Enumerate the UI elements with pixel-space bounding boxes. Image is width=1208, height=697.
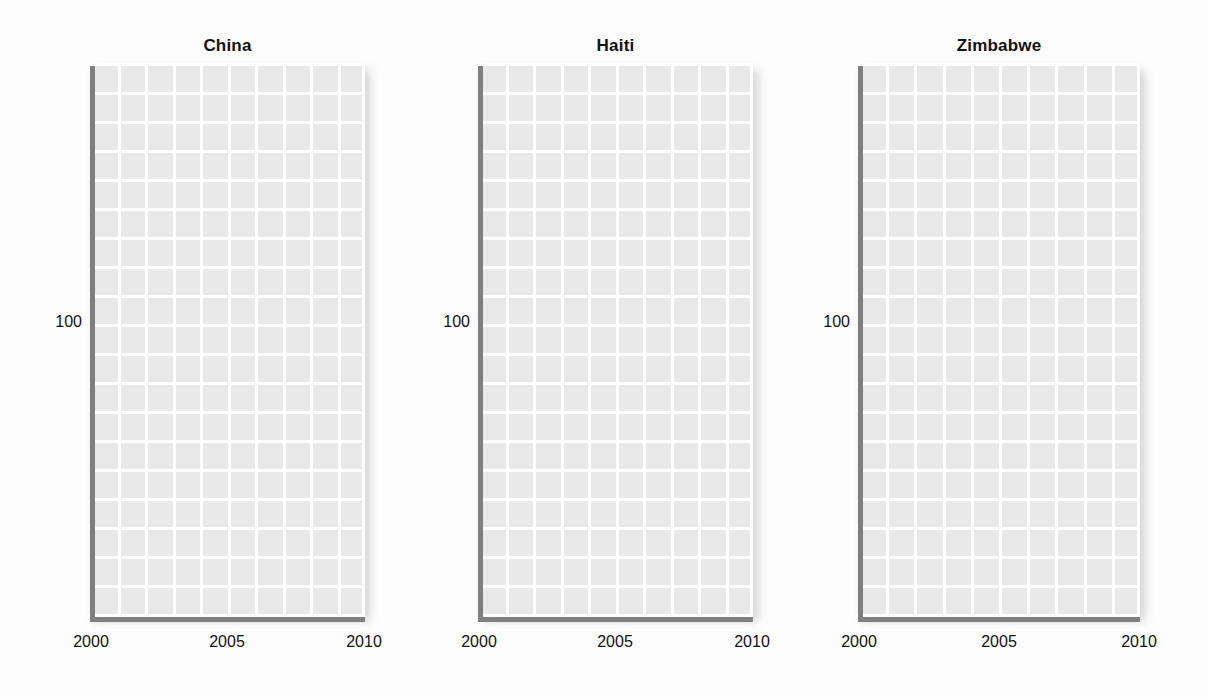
gridline-vertical [255, 66, 258, 617]
gridline-horizontal [478, 63, 753, 66]
gridline-horizontal [478, 382, 753, 385]
gridline-horizontal [858, 585, 1140, 588]
gridline-horizontal [90, 208, 365, 211]
plot-area-china [90, 66, 365, 617]
gridline-vertical [1084, 66, 1087, 617]
gridline-vertical [228, 66, 231, 617]
gridline-horizontal [90, 237, 365, 240]
gridline-horizontal [90, 527, 365, 530]
x-tick-label-china-2000: 2000 [53, 633, 129, 651]
gridline-vertical [671, 66, 674, 617]
gridline-horizontal [478, 469, 753, 472]
gridline-vertical [1112, 66, 1115, 617]
gridline-horizontal [478, 498, 753, 501]
gridline-horizontal [478, 150, 753, 153]
gridline-horizontal [90, 324, 365, 327]
gridline-vertical [914, 66, 917, 617]
gridline-vertical [283, 66, 286, 617]
gridline-horizontal [90, 295, 365, 298]
gridline-horizontal [858, 237, 1140, 240]
gridlines-zimbabwe [858, 66, 1140, 617]
gridline-horizontal [858, 295, 1140, 298]
gridline-horizontal [90, 382, 365, 385]
gridline-vertical [588, 66, 591, 617]
gridlines-china [90, 66, 365, 617]
gridline-horizontal [90, 411, 365, 414]
gridline-horizontal [90, 556, 365, 559]
gridline-vertical [1055, 66, 1058, 617]
facet-panel-haiti: Haiti 100 2000 2005 2010 [430, 0, 763, 697]
gridline-vertical [145, 66, 148, 617]
x-tick-label-china-2010: 2010 [326, 633, 402, 651]
gridline-vertical [999, 66, 1002, 617]
gridline-horizontal [858, 411, 1140, 414]
gridline-horizontal [478, 295, 753, 298]
gridline-horizontal [858, 527, 1140, 530]
x-tick-label-zimbabwe-2000: 2000 [821, 633, 897, 651]
x-tick-label-zimbabwe-2005: 2005 [961, 633, 1037, 651]
gridline-vertical [1137, 66, 1140, 617]
gridline-horizontal [478, 440, 753, 443]
x-tick-label-zimbabwe-2010: 2010 [1101, 633, 1177, 651]
gridline-horizontal [858, 266, 1140, 269]
y-tick-label-china: 100 [40, 313, 82, 331]
gridline-horizontal [858, 469, 1140, 472]
plot-area-haiti [478, 66, 753, 617]
figure-canvas: China 100 2000 2005 2010 Haiti 100 2000 … [0, 0, 1208, 697]
x-tick-label-china-2005: 2005 [189, 633, 265, 651]
gridline-horizontal [90, 585, 365, 588]
gridline-vertical [698, 66, 701, 617]
gridline-horizontal [90, 179, 365, 182]
gridline-vertical [726, 66, 729, 617]
gridline-horizontal [858, 121, 1140, 124]
gridline-horizontal [90, 121, 365, 124]
panel-title-haiti: Haiti [478, 36, 753, 56]
x-axis-line-china [90, 617, 365, 622]
gridline-vertical [310, 66, 313, 617]
gridline-horizontal [858, 92, 1140, 95]
gridline-horizontal [90, 92, 365, 95]
gridline-horizontal [478, 92, 753, 95]
gridline-vertical [1027, 66, 1030, 617]
gridline-horizontal [858, 208, 1140, 211]
gridline-horizontal [90, 63, 365, 66]
gridline-vertical [506, 66, 509, 617]
x-tick-label-haiti-2000: 2000 [441, 633, 517, 651]
gridline-vertical [338, 66, 341, 617]
facet-panel-china: China 100 2000 2005 2010 [40, 0, 375, 697]
gridline-horizontal [478, 527, 753, 530]
gridline-horizontal [90, 469, 365, 472]
gridline-vertical [362, 66, 365, 617]
gridline-horizontal [478, 208, 753, 211]
gridline-horizontal [858, 179, 1140, 182]
gridline-horizontal [858, 353, 1140, 356]
y-axis-line-china [90, 66, 95, 617]
y-axis-line-zimbabwe [858, 66, 863, 617]
gridline-vertical [971, 66, 974, 617]
gridline-horizontal [858, 63, 1140, 66]
panel-title-zimbabwe: Zimbabwe [858, 36, 1140, 56]
gridline-horizontal [90, 498, 365, 501]
gridline-horizontal [90, 353, 365, 356]
gridline-horizontal [90, 150, 365, 153]
gridline-horizontal [478, 585, 753, 588]
gridline-vertical [533, 66, 536, 617]
gridline-vertical [561, 66, 564, 617]
gridline-horizontal [90, 266, 365, 269]
gridline-horizontal [478, 556, 753, 559]
x-axis-line-haiti [478, 617, 753, 622]
gridline-horizontal [90, 440, 365, 443]
gridline-vertical [750, 66, 753, 617]
gridline-horizontal [478, 121, 753, 124]
gridline-vertical [200, 66, 203, 617]
gridline-horizontal [478, 411, 753, 414]
gridline-horizontal [858, 324, 1140, 327]
gridline-horizontal [478, 353, 753, 356]
gridline-horizontal [478, 266, 753, 269]
panel-title-china: China [90, 36, 365, 56]
x-axis-line-zimbabwe [858, 617, 1140, 622]
gridline-vertical [616, 66, 619, 617]
gridline-horizontal [858, 382, 1140, 385]
gridline-vertical [118, 66, 121, 617]
gridline-horizontal [858, 498, 1140, 501]
